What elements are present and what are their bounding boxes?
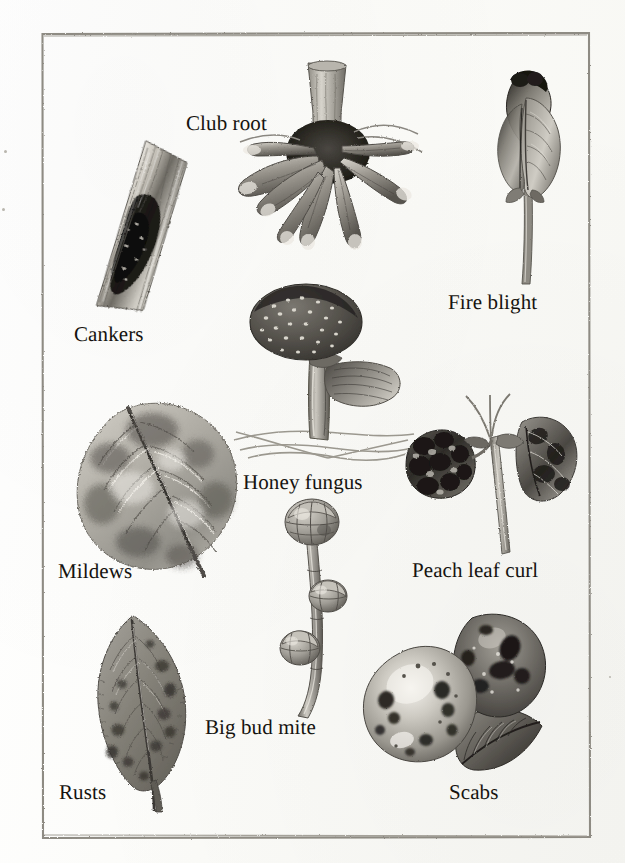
honey-fungus-figure: [232, 282, 417, 477]
label-honey-fungus: Honey fungus: [243, 472, 363, 493]
peach-leaf-curl-figure: [398, 392, 583, 572]
label-mildews: Mildews: [58, 561, 132, 582]
scabs-figure: [352, 604, 557, 794]
illustration-plate-page: Club root Cankers Fire blight Honey fung…: [0, 0, 625, 863]
margin-speck: [4, 150, 7, 153]
margin-speck: [609, 676, 611, 678]
club-root-figure: [222, 60, 437, 290]
label-club-root: Club root: [186, 113, 267, 134]
fire-blight-figure: [480, 62, 585, 292]
label-peach-leaf-curl: Peach leaf curl: [412, 560, 538, 581]
label-scabs: Scabs: [449, 782, 499, 803]
mildews-figure: [66, 396, 256, 586]
label-cankers: Cankers: [74, 324, 144, 345]
margin-speck: [2, 208, 5, 211]
label-fire-blight: Fire blight: [448, 292, 537, 313]
label-big-bud-mite: Big bud mite: [205, 717, 316, 738]
big-bud-mite-figure: [266, 500, 361, 720]
cankers-figure: [82, 130, 202, 330]
label-rusts: Rusts: [59, 782, 106, 803]
